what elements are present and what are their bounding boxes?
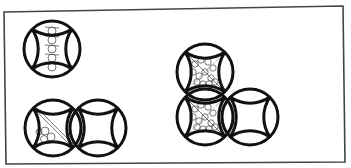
- small-circle: [205, 104, 211, 110]
- circle-motif: [24, 21, 80, 77]
- stipple-dot: [212, 110, 213, 111]
- outer-circle: [70, 100, 126, 156]
- stipple-dot: [195, 127, 196, 128]
- motif-layer: [24, 21, 278, 156]
- small-circle: [48, 54, 56, 62]
- stipple-dot: [218, 59, 219, 60]
- stipple-dot: [209, 113, 210, 114]
- stipple-dot: [203, 74, 204, 75]
- stipple-dot: [191, 131, 192, 132]
- stipple-dot: [193, 84, 194, 85]
- stipple-dot: [217, 60, 218, 61]
- stipple-dot: [211, 111, 212, 112]
- stipple-dot: [195, 82, 196, 83]
- stipple-dot: [203, 119, 204, 120]
- stipple-dot: [194, 83, 195, 84]
- stipple-dot: [200, 77, 201, 78]
- circle-motif: [177, 89, 233, 145]
- stipple-dot: [202, 120, 203, 121]
- small-circle: [205, 59, 211, 65]
- stipple-dot: [216, 61, 217, 62]
- horizontal-pair-group: [25, 100, 126, 156]
- stipple-dot: [217, 105, 218, 106]
- stipple-dot: [214, 108, 215, 109]
- stipple-dot: [208, 114, 209, 115]
- concave-square-shape: [230, 97, 270, 137]
- frame-border: [4, 6, 345, 164]
- small-circle: [48, 45, 56, 53]
- outer-circle: [24, 21, 80, 77]
- stipple-dot: [205, 72, 206, 73]
- stipple-dot: [214, 63, 215, 64]
- small-circle: [47, 133, 55, 141]
- concave-square-shape: [32, 29, 72, 69]
- stipple-dot: [201, 76, 202, 77]
- stipple-dot: [205, 117, 206, 118]
- stipple-dot: [210, 67, 211, 68]
- hatch-line: [45, 54, 59, 55]
- circle-motif: [25, 100, 81, 156]
- hatch-line: [45, 45, 59, 46]
- stipple-dot: [208, 69, 209, 70]
- stipple-dot: [201, 121, 202, 122]
- outer-circle: [222, 89, 278, 145]
- stipple-dot: [191, 86, 192, 87]
- stipple-dot: [212, 65, 213, 66]
- stipple-dot: [202, 75, 203, 76]
- stipple-dot: [209, 68, 210, 69]
- stipple-dot: [219, 58, 220, 59]
- stipple-dot: [207, 115, 208, 116]
- circle-motif: [70, 100, 126, 156]
- stipple-dot: [210, 112, 211, 113]
- stipple-dot: [196, 126, 197, 127]
- hatch-line: [45, 27, 59, 28]
- stipple-dot: [198, 124, 199, 125]
- stipple-dot: [218, 104, 219, 105]
- stipple-dot: [193, 129, 194, 130]
- small-circle: [48, 36, 56, 44]
- diagram-canvas: [0, 0, 351, 168]
- stipple-dot: [204, 73, 205, 74]
- concave-square-shape: [78, 108, 118, 148]
- stipple-dot: [219, 103, 220, 104]
- stipple-dot: [216, 106, 217, 107]
- stipple-dot: [200, 122, 201, 123]
- stipple-dot: [207, 70, 208, 71]
- stipple-dot: [197, 80, 198, 81]
- stipple-dot: [198, 79, 199, 80]
- stipple-dot: [197, 125, 198, 126]
- circle-motif: [222, 89, 278, 145]
- stipple-dot: [194, 128, 195, 129]
- single-motif-group: [24, 21, 80, 77]
- stipple-dot: [196, 81, 197, 82]
- stipple-dot: [211, 66, 212, 67]
- l-shaped-triple-group: [177, 44, 278, 145]
- stipple-dot: [204, 118, 205, 119]
- circle-motif: [177, 44, 233, 100]
